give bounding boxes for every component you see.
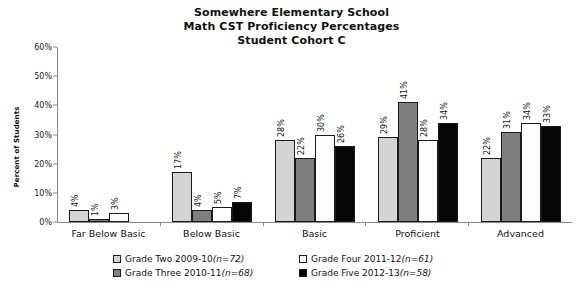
bar-group-bars: 29%41%28%34% bbox=[366, 47, 469, 222]
y-tick-mark bbox=[53, 76, 57, 77]
legend-item[interactable]: Grade Two 2009-10 (n=72) bbox=[113, 252, 287, 266]
y-tick-mark bbox=[53, 134, 57, 135]
legend-item[interactable]: Grade Five 2012-13 (n=58) bbox=[299, 266, 473, 280]
bar[interactable]: 34% bbox=[521, 123, 541, 222]
bar-value-label: 29% bbox=[380, 117, 389, 135]
legend-item[interactable]: Grade Four 2011-12 (n=61) bbox=[299, 252, 473, 266]
x-axis-group-separator bbox=[263, 222, 264, 226]
y-tick-mark bbox=[53, 47, 57, 48]
chart-title-line-1: Somewhere Elementary School bbox=[0, 6, 583, 20]
plot-area: 0%10%20%30%40%50%60% 4%1%3%17%4%5%7%28%2… bbox=[57, 47, 572, 222]
chart-title: Somewhere Elementary School Math CST Pro… bbox=[0, 6, 583, 48]
legend-swatch bbox=[299, 269, 307, 277]
chart-container: Somewhere Elementary School Math CST Pro… bbox=[0, 0, 583, 300]
legend-item[interactable]: Grade Three 2010-11 (n=68) bbox=[113, 266, 287, 280]
bar-groups: 4%1%3%17%4%5%7%28%22%30%26%29%41%28%34%2… bbox=[58, 47, 572, 222]
bar-value-label: 3% bbox=[111, 198, 120, 211]
legend-label: Grade Three 2010-11 bbox=[125, 268, 222, 278]
bar-group: 28%22%30%26% bbox=[264, 47, 367, 222]
y-tick-mark bbox=[53, 192, 57, 193]
bar[interactable]: 3% bbox=[109, 213, 129, 222]
bar-slot bbox=[129, 47, 149, 222]
bar-value-label: 28% bbox=[277, 120, 286, 138]
bar-value-label: 5% bbox=[214, 192, 223, 205]
bar-slot: 26% bbox=[335, 47, 355, 222]
y-tick-mark bbox=[53, 222, 57, 223]
bar[interactable]: 4% bbox=[192, 210, 212, 222]
legend-sample-size: (n=68) bbox=[222, 268, 254, 278]
bar-slot: 41% bbox=[398, 47, 418, 222]
bar[interactable]: 30% bbox=[315, 135, 335, 223]
x-axis-line bbox=[57, 222, 572, 223]
x-axis-group-separator bbox=[160, 222, 161, 226]
bar-group: 29%41%28%34% bbox=[366, 47, 469, 222]
bar-value-label: 28% bbox=[420, 120, 429, 138]
bar-slot: 17% bbox=[172, 47, 192, 222]
y-axis-title: Percent of Students bbox=[13, 0, 21, 92]
x-category-label: Advanced bbox=[469, 228, 572, 239]
bar-group-bars: 22%31%34%33% bbox=[469, 47, 572, 222]
bar[interactable]: 7% bbox=[232, 202, 252, 222]
bar-value-label: 41% bbox=[400, 82, 409, 100]
x-axis-group-separator bbox=[365, 222, 366, 226]
legend-label: Grade Five 2012-13 bbox=[311, 268, 400, 278]
x-axis-labels: Far Below BasicBelow BasicBasicProficien… bbox=[57, 228, 572, 239]
bar-slot: 1% bbox=[89, 47, 109, 222]
y-axis-title-text: Percent of Students bbox=[13, 92, 21, 202]
x-category-label: Basic bbox=[263, 228, 366, 239]
bar[interactable]: 41% bbox=[398, 102, 418, 222]
bar-slot: 31% bbox=[501, 47, 521, 222]
legend-sample-size: (n=72) bbox=[213, 254, 245, 264]
bar-group: 17%4%5%7% bbox=[161, 47, 264, 222]
bar-slot: 22% bbox=[481, 47, 501, 222]
x-category-label: Far Below Basic bbox=[57, 228, 160, 239]
bar-slot: 22% bbox=[295, 47, 315, 222]
bar[interactable]: 22% bbox=[481, 158, 501, 222]
bar-value-label: 7% bbox=[234, 186, 243, 199]
bar[interactable]: 4% bbox=[69, 210, 89, 222]
bar[interactable]: 22% bbox=[295, 158, 315, 222]
bar-value-label: 22% bbox=[297, 137, 306, 155]
chart-title-line-2: Math CST Proficiency Percentages bbox=[0, 20, 583, 34]
bar-value-label: 1% bbox=[91, 203, 100, 216]
bar[interactable]: 31% bbox=[501, 132, 521, 222]
bar-slot: 3% bbox=[109, 47, 129, 222]
legend-swatch bbox=[113, 269, 121, 277]
chart-legend: Grade Two 2009-10 (n=72)Grade Four 2011-… bbox=[113, 252, 473, 280]
bar[interactable]: 1% bbox=[89, 219, 109, 222]
bar[interactable]: 29% bbox=[378, 137, 398, 222]
bar[interactable]: 28% bbox=[418, 140, 438, 222]
x-category-label: Below Basic bbox=[160, 228, 263, 239]
legend-label: Grade Four 2011-12 bbox=[311, 254, 402, 264]
y-tick-mark bbox=[53, 163, 57, 164]
legend-label: Grade Two 2009-10 bbox=[125, 254, 213, 264]
legend-sample-size: (n=61) bbox=[402, 254, 434, 264]
bar-group-bars: 28%22%30%26% bbox=[264, 47, 367, 222]
bar-value-label: 30% bbox=[317, 114, 326, 132]
bar[interactable]: 5% bbox=[212, 207, 232, 222]
bar-slot: 4% bbox=[69, 47, 89, 222]
bar-value-label: 34% bbox=[440, 102, 449, 120]
bar[interactable]: 26% bbox=[335, 146, 355, 222]
bar-slot: 4% bbox=[192, 47, 212, 222]
legend-swatch bbox=[113, 255, 121, 263]
bar-value-label: 31% bbox=[503, 111, 512, 129]
bar-group: 4%1%3% bbox=[58, 47, 161, 222]
chart-title-line-3: Student Cohort C bbox=[0, 34, 583, 48]
bar-value-label: 34% bbox=[523, 102, 532, 120]
bar-value-label: 4% bbox=[194, 195, 203, 208]
bar-slot: 7% bbox=[232, 47, 252, 222]
bar-slot: 29% bbox=[378, 47, 398, 222]
bar[interactable]: 34% bbox=[438, 123, 458, 222]
x-category-label: Proficient bbox=[366, 228, 469, 239]
bar[interactable]: 33% bbox=[541, 126, 561, 222]
bar-slot: 30% bbox=[315, 47, 335, 222]
bar-value-label: 17% bbox=[174, 152, 183, 170]
bar-slot: 33% bbox=[541, 47, 561, 222]
x-axis-group-separator bbox=[468, 222, 469, 226]
bar-slot: 34% bbox=[438, 47, 458, 222]
bar[interactable]: 17% bbox=[172, 172, 192, 222]
bar-value-label: 4% bbox=[71, 195, 80, 208]
bar[interactable]: 28% bbox=[275, 140, 295, 222]
legend-sample-size: (n=58) bbox=[400, 268, 432, 278]
